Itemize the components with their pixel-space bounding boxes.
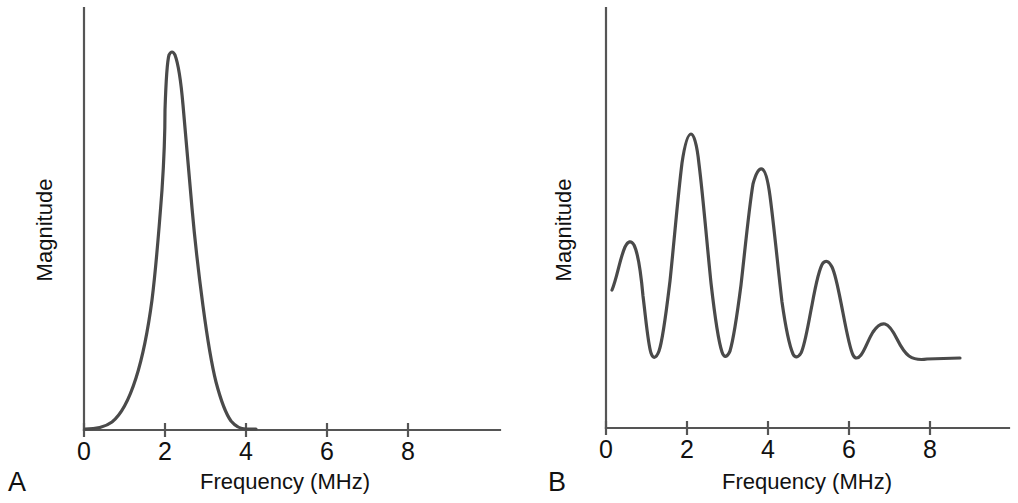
- panel-a-x-axis-label: Frequency (MHz): [200, 469, 370, 494]
- panel-a: 0 2 4 6 8 Magnitude Frequency (MHz) A: [0, 0, 509, 503]
- panel-b-tick-label-6: 6: [842, 435, 856, 463]
- panel-b-tick-label-4: 4: [761, 435, 775, 463]
- panel-a-tick-label-0: 0: [77, 437, 91, 465]
- panel-a-y-axis-label: Magnitude: [32, 179, 57, 282]
- two-panel-spectrum-figure: 0 2 4 6 8 Magnitude Frequency (MHz) A: [0, 0, 1018, 503]
- panel-b-tick-label-0: 0: [599, 435, 613, 463]
- panel-a-plot: 0 2 4 6 8 Magnitude Frequency (MHz) A: [0, 0, 509, 503]
- panel-b-plot: 0 2 4 6 8 Magnitude Frequency (MHz) B: [509, 0, 1018, 503]
- panel-a-tick-label-8: 8: [401, 437, 415, 465]
- panel-a-tick-label-2: 2: [158, 437, 172, 465]
- panel-b-tick-label-8: 8: [923, 435, 937, 463]
- panel-a-tick-label-4: 4: [239, 437, 253, 465]
- panel-b: 0 2 4 6 8 Magnitude Frequency (MHz) B: [509, 0, 1018, 503]
- panel-a-letter: A: [8, 467, 26, 497]
- panel-b-curve: [612, 134, 960, 360]
- panel-a-curve: [85, 52, 256, 429]
- panel-b-tick-label-2: 2: [680, 435, 694, 463]
- panel-b-x-axis-label: Frequency (MHz): [722, 469, 892, 494]
- panel-b-y-axis-label: Magnitude: [551, 179, 576, 282]
- panel-a-tick-label-6: 6: [320, 437, 334, 465]
- panel-b-letter: B: [548, 467, 566, 497]
